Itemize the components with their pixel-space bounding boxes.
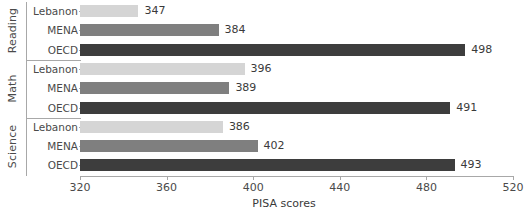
- category-label-oecd: OECD: [26, 99, 78, 117]
- bar-row: MENA402: [26, 137, 528, 155]
- x-tick: [80, 176, 81, 180]
- bar-reading-mena[interactable]: [80, 24, 219, 36]
- x-axis-title: PISA scores: [0, 197, 528, 210]
- bar-value-label: 402: [264, 137, 285, 155]
- bar-math-mena[interactable]: [80, 82, 229, 94]
- x-tick-label: 480: [416, 181, 437, 194]
- bar-row: MENA384: [26, 21, 528, 39]
- bar-science-lebanon[interactable]: [80, 121, 223, 133]
- bar-science-mena[interactable]: [80, 140, 258, 152]
- bar-math-oecd[interactable]: [80, 102, 450, 114]
- bar-value-label: 498: [471, 41, 492, 59]
- category-label-mena: MENA: [26, 21, 78, 39]
- group-label-text: Reading: [7, 8, 20, 53]
- x-axis-line: [80, 176, 513, 177]
- category-label-mena: MENA: [26, 79, 78, 97]
- x-tick-label: 400: [243, 181, 264, 194]
- bar-row: Lebanon347: [26, 2, 528, 20]
- x-tick: [513, 176, 514, 180]
- x-tick-label: 320: [70, 181, 91, 194]
- category-label-oecd: OECD: [26, 41, 78, 59]
- bar-row: OECD493: [26, 156, 528, 174]
- bar-reading-oecd[interactable]: [80, 44, 465, 56]
- bar-row: MENA389: [26, 79, 528, 97]
- pisa-scores-bar-chart: ReadingLebanon347MENA384OECD498MathLeban…: [0, 0, 528, 214]
- group-label-reading: Reading: [0, 2, 26, 60]
- x-tick: [426, 176, 427, 180]
- bar-row: Lebanon386: [26, 118, 528, 136]
- x-tick: [253, 176, 254, 180]
- category-label-mena: MENA: [26, 137, 78, 155]
- bar-value-label: 347: [144, 2, 165, 20]
- bar-row: OECD498: [26, 41, 528, 59]
- bar-value-label: 396: [251, 60, 272, 78]
- bar-value-label: 493: [461, 156, 482, 174]
- category-label-lebanon: Lebanon: [26, 60, 78, 78]
- x-tick: [167, 176, 168, 180]
- category-label-oecd: OECD: [26, 156, 78, 174]
- x-tick-label: 360: [156, 181, 177, 194]
- bar-value-label: 384: [225, 21, 246, 39]
- category-label-lebanon: Lebanon: [26, 118, 78, 136]
- bar-row: Lebanon396: [26, 60, 528, 78]
- group-label-text: Math: [7, 75, 20, 103]
- bar-value-label: 386: [229, 118, 250, 136]
- group-label-science: Science: [0, 118, 26, 176]
- group-label-text: Science: [7, 125, 20, 168]
- group-label-math: Math: [0, 60, 26, 118]
- category-label-lebanon: Lebanon: [26, 2, 78, 20]
- bar-row: OECD491: [26, 99, 528, 117]
- x-axis-title-label: PISA scores: [252, 197, 315, 210]
- bar-science-oecd[interactable]: [80, 159, 455, 171]
- x-tick-label: 440: [329, 181, 350, 194]
- bar-math-lebanon[interactable]: [80, 63, 245, 75]
- bar-reading-lebanon[interactable]: [80, 5, 138, 17]
- bar-value-label: 389: [235, 79, 256, 97]
- bar-value-label: 491: [456, 99, 477, 117]
- x-tick-label: 520: [503, 181, 524, 194]
- x-tick: [340, 176, 341, 180]
